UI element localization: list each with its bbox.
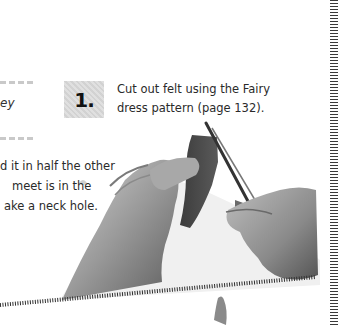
step-instruction-line: dress pattern (page 132).	[117, 99, 317, 118]
step-instruction: Cut out felt using the Fairy dress patte…	[117, 80, 317, 118]
instruction-paragraph: d it in half the other meet is in the ak…	[0, 156, 120, 216]
paragraph-line: meet is in the	[0, 176, 120, 196]
side-note-text: ey	[0, 96, 14, 110]
perforated-bottom-edge	[0, 277, 316, 305]
step-number-badge: 1.	[64, 81, 104, 118]
step-number: 1.	[74, 88, 94, 112]
dashed-divider-top	[0, 81, 33, 84]
step-instruction-line: Cut out felt using the Fairy	[117, 80, 317, 99]
paragraph-line: d it in half the other	[0, 156, 120, 176]
perforated-right-edge	[330, 0, 338, 325]
paragraph-line: ake a neck hole.	[0, 196, 120, 216]
book-page: ey	[0, 0, 346, 325]
dashed-divider-bottom	[0, 137, 33, 140]
